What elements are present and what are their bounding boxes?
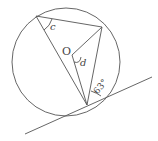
label-63-degrees: 63°	[91, 77, 109, 96]
tangent-line	[25, 77, 152, 134]
circle	[12, 8, 120, 116]
chord-top	[36, 16, 102, 27]
label-d: d	[80, 57, 86, 68]
label-c: c	[50, 21, 56, 32]
geometry-diagram: c O d 63°	[0, 0, 158, 141]
label-center-o: O	[62, 45, 71, 58]
